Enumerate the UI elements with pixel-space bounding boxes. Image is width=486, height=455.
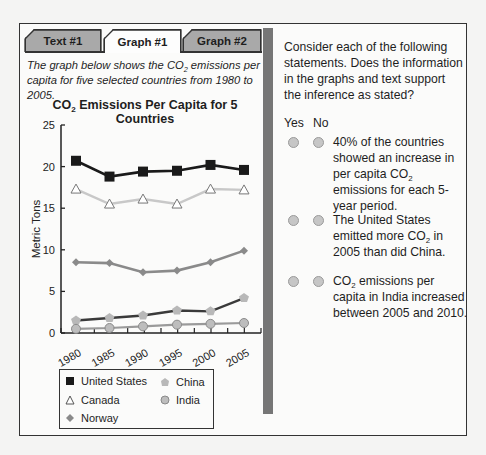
chart-legend: United States Canada Norway China India — [59, 369, 214, 429]
legend-item-norway: Norway — [65, 412, 118, 424]
triangle-marker-icon — [65, 395, 75, 405]
legend-item-china: China — [160, 376, 205, 388]
statement-1-yes-radio[interactable] — [288, 137, 299, 148]
statement-1-no-radio[interactable] — [313, 137, 324, 148]
svg-text:10: 10 — [43, 244, 55, 256]
statement-2-no-radio[interactable] — [313, 215, 324, 226]
panel-divider[interactable] — [263, 28, 273, 414]
legend-item-india: India — [160, 394, 200, 406]
svg-text:15: 15 — [43, 202, 55, 214]
statement-2-yes-radio[interactable] — [288, 215, 299, 226]
svg-text:5: 5 — [49, 285, 55, 297]
yes-column-header: Yes — [284, 116, 304, 130]
pentagon-marker-icon — [160, 377, 170, 387]
svg-text:25: 25 — [43, 119, 55, 131]
svg-text:2005: 2005 — [224, 346, 251, 369]
svg-text:1990: 1990 — [123, 346, 150, 369]
statement-3-no-radio[interactable] — [313, 276, 324, 287]
svg-text:20: 20 — [43, 161, 55, 173]
statement-2: The United States emitted more CO2 in 20… — [333, 212, 468, 260]
svg-text:0: 0 — [49, 327, 55, 339]
diamond-marker-icon — [65, 413, 75, 423]
circle-marker-icon — [160, 395, 170, 405]
statement-3-yes-radio[interactable] — [288, 276, 299, 287]
statement-3: CO2 emissions per capita in India increa… — [333, 273, 468, 321]
svg-text:Metric Tons: Metric Tons — [30, 199, 42, 258]
statement-1: 40% of the countries showed an increase … — [333, 134, 468, 214]
svg-text:1995: 1995 — [157, 346, 184, 369]
square-marker-icon — [65, 376, 75, 386]
svg-text:1985: 1985 — [89, 346, 116, 369]
svg-text:2000: 2000 — [190, 346, 217, 369]
no-column-header: No — [313, 116, 329, 130]
legend-item-united-states: United States — [65, 375, 147, 387]
svg-text:1980: 1980 — [56, 346, 83, 369]
legend-item-canada: Canada — [65, 394, 120, 406]
question-prompt: Consider each of the following statement… — [284, 39, 464, 103]
